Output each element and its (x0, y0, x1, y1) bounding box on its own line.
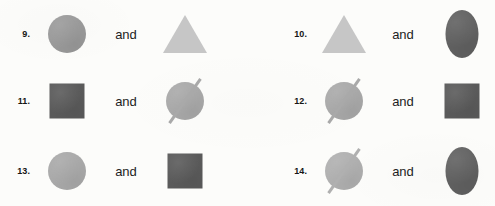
right-shape-slot (148, 3, 222, 65)
left-shape-slot (30, 140, 104, 202)
right-shape-slot (148, 70, 222, 132)
dark-gray-square (50, 84, 85, 119)
item-11: 11. and (0, 70, 222, 132)
item-number: 10. (277, 30, 307, 39)
item-number: 12. (277, 97, 307, 106)
conjunction-label: and (104, 165, 148, 178)
item-9: 9. and (0, 3, 222, 65)
item-13: 13. and (0, 140, 222, 202)
item-number: 13. (0, 167, 30, 176)
gray-circle (48, 15, 86, 53)
conjunction-label: and (104, 95, 148, 108)
right-shape-slot (425, 140, 495, 202)
gray-circle-with-line (166, 82, 204, 120)
item-number: 11. (0, 97, 30, 106)
item-12: 12. and (277, 70, 495, 132)
worksheet-page: 9. and 10. and 11. and 12. an (0, 0, 495, 206)
gray-circle-with-line (325, 152, 363, 190)
dark-gray-oval (446, 147, 479, 195)
gray-circle-with-line (325, 82, 363, 120)
dark-gray-square (168, 154, 203, 189)
right-shape-slot (148, 140, 222, 202)
item-number: 9. (0, 30, 30, 39)
right-shape-slot (425, 3, 495, 65)
conjunction-label: and (381, 165, 425, 178)
light-gray-triangle (322, 15, 366, 53)
gray-circle (48, 152, 86, 190)
dark-gray-oval (446, 10, 479, 58)
left-shape-slot (30, 70, 104, 132)
conjunction-label: and (104, 28, 148, 41)
light-gray-triangle (163, 15, 207, 53)
item-number: 14. (277, 167, 307, 176)
conjunction-label: and (381, 28, 425, 41)
dark-gray-square (445, 84, 480, 119)
left-shape-slot (307, 140, 381, 202)
left-shape-slot (307, 3, 381, 65)
left-shape-slot (30, 3, 104, 65)
left-shape-slot (307, 70, 381, 132)
right-shape-slot (425, 70, 495, 132)
conjunction-label: and (381, 95, 425, 108)
item-10: 10. and (277, 3, 495, 65)
item-14: 14. and (277, 140, 495, 202)
